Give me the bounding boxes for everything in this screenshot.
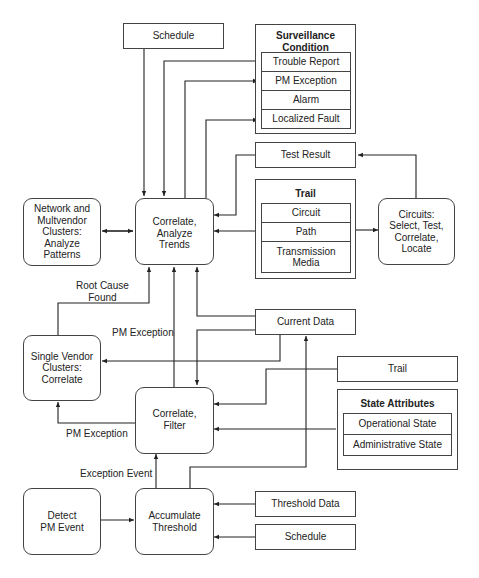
test-result-label: Test Result bbox=[281, 149, 330, 161]
trouble-report-label: Trouble Report bbox=[273, 56, 339, 68]
threshold-data-label: Threshold Data bbox=[271, 498, 339, 510]
accumulate-line2: Threshold bbox=[152, 522, 196, 534]
alarm-label: Alarm bbox=[293, 94, 319, 106]
correlate-analyze-line3: Trends bbox=[159, 239, 190, 251]
correlate-analyze-line2: Analyze bbox=[157, 228, 193, 240]
pm-exception-mid-label: PM Exception bbox=[112, 327, 174, 339]
root-cause-found-label: Root Cause Found bbox=[76, 280, 129, 303]
detect-pm-line2: PM Event bbox=[40, 522, 83, 534]
circuit-label: Circuit bbox=[292, 207, 320, 219]
surveillance-condition-title: Surveillance Condition bbox=[256, 30, 355, 53]
root-cause-line2: Found bbox=[76, 292, 129, 304]
transmission-media-label: Transmission Media bbox=[274, 246, 338, 269]
trail-group: Trail Circuit Path Transmission Media bbox=[255, 179, 356, 279]
alarm-item: Alarm bbox=[261, 90, 351, 110]
network-clusters-line5: Patterns bbox=[43, 249, 80, 261]
network-clusters-box: Network and Multvendor Clusters: Analyze… bbox=[23, 198, 101, 266]
trail-box: Trail bbox=[337, 356, 458, 382]
operational-state-label: Operational State bbox=[359, 418, 437, 430]
path-item: Path bbox=[261, 222, 351, 242]
schedule-top-box: Schedule bbox=[123, 23, 224, 49]
detect-pm-line1: Detect bbox=[48, 510, 77, 522]
schedule-bottom-label: Schedule bbox=[285, 531, 327, 543]
circuit-item: Circuit bbox=[261, 203, 351, 223]
threshold-data-box: Threshold Data bbox=[255, 491, 356, 517]
current-data-box: Current Data bbox=[255, 309, 356, 335]
localized-fault-label: Localized Fault bbox=[272, 113, 339, 125]
network-clusters-line4: Analyze bbox=[44, 238, 80, 250]
schedule-top-label: Schedule bbox=[153, 30, 195, 42]
correlate-filter-line1: Correlate, bbox=[153, 408, 197, 420]
root-cause-line1: Root Cause bbox=[76, 280, 129, 292]
single-vendor-line2: Clusters: bbox=[42, 362, 81, 374]
current-data-label: Current Data bbox=[277, 316, 334, 328]
pm-exception-label: PM Exception bbox=[275, 75, 337, 87]
correlate-analyze-line1: Correlate, bbox=[153, 216, 197, 228]
test-result-box: Test Result bbox=[255, 142, 356, 168]
single-vendor-line1: Single Vendor bbox=[31, 351, 93, 363]
circuits-line3: Correlate, bbox=[395, 232, 439, 244]
operational-state-item: Operational State bbox=[343, 413, 452, 435]
state-attributes-group: State Attributes Operational State Admin… bbox=[337, 389, 458, 470]
single-vendor-line3: Correlate bbox=[41, 374, 82, 386]
accumulate-line1: Accumulate bbox=[148, 510, 200, 522]
detect-pm-event-box: Detect PM Event bbox=[23, 488, 101, 555]
circuits-line1: Circuits: bbox=[398, 209, 434, 221]
circuits-box: Circuits: Select, Test, Correlate, Locat… bbox=[378, 198, 455, 265]
circuits-line2: Select, Test, bbox=[389, 220, 443, 232]
administrative-state-label: Administrative State bbox=[353, 439, 442, 451]
trail-box-label: Trail bbox=[388, 363, 407, 375]
pm-exception-item: PM Exception bbox=[261, 71, 351, 91]
path-label: Path bbox=[296, 226, 317, 238]
state-attributes-title: State Attributes bbox=[338, 398, 457, 410]
correlate-analyze-box: Correlate, Analyze Trends bbox=[135, 198, 214, 265]
network-clusters-line1: Network and bbox=[34, 203, 90, 215]
exception-event-label: Exception Event bbox=[80, 468, 152, 480]
accumulate-threshold-box: Accumulate Threshold bbox=[135, 488, 214, 555]
schedule-bottom-box: Schedule bbox=[255, 524, 356, 550]
correlate-filter-box: Correlate, Filter bbox=[135, 387, 214, 454]
trouble-report-item: Trouble Report bbox=[261, 52, 351, 72]
localized-fault-item: Localized Fault bbox=[261, 109, 351, 129]
pm-exception-low-label: PM Exception bbox=[66, 428, 128, 440]
surveillance-condition-group: Surveillance Condition Trouble Report PM… bbox=[255, 24, 356, 134]
transmission-media-item: Transmission Media bbox=[261, 241, 351, 273]
trail-group-title: Trail bbox=[256, 188, 355, 200]
correlate-filter-line2: Filter bbox=[163, 420, 185, 432]
network-clusters-line3: Clusters: bbox=[42, 226, 81, 238]
single-vendor-box: Single Vendor Clusters: Correlate bbox=[23, 335, 101, 401]
surveillance-title-line1: Surveillance bbox=[256, 30, 355, 42]
circuits-line4: Locate bbox=[401, 243, 431, 255]
administrative-state-item: Administrative State bbox=[343, 434, 452, 456]
network-clusters-line2: Multvendor bbox=[37, 215, 86, 227]
